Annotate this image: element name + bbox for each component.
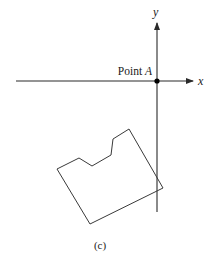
x-axis-label: x <box>197 74 204 88</box>
figure-caption: (c) <box>94 239 107 252</box>
point-a-label: Point A <box>118 65 153 77</box>
point-a-label-prefix: Point <box>118 65 145 77</box>
y-axis-label: y <box>152 5 159 19</box>
point-a-marker <box>154 78 159 83</box>
diagram-figure: x y Point A (c) <box>0 0 213 270</box>
notched-polygon <box>57 129 163 224</box>
point-a-label-var: A <box>144 65 153 77</box>
